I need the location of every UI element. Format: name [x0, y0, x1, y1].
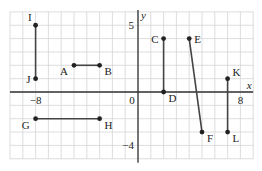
point-E	[187, 36, 192, 41]
y-axis-label: y	[140, 9, 146, 21]
origin-label: 0	[129, 94, 135, 106]
point-C	[161, 36, 166, 41]
point-label-H: H	[105, 119, 113, 131]
tick-label-x: −8	[30, 94, 42, 106]
point-label-I: I	[28, 11, 32, 23]
point-J	[33, 76, 38, 81]
point-label-G: G	[22, 119, 30, 131]
point-label-E: E	[194, 33, 201, 45]
point-G	[33, 116, 38, 121]
grid-lines	[10, 12, 253, 159]
point-B	[97, 63, 102, 68]
point-I	[33, 23, 38, 28]
tick-label-y: 5	[129, 19, 135, 31]
point-label-L: L	[233, 132, 240, 144]
tick-label-y: −4	[122, 139, 134, 151]
point-A	[72, 63, 77, 68]
point-label-J: J	[26, 73, 31, 85]
point-D	[161, 90, 166, 95]
point-label-K: K	[233, 66, 241, 78]
point-label-D: D	[169, 92, 177, 104]
point-label-A: A	[60, 65, 68, 77]
point-label-B: B	[105, 65, 112, 77]
point-F	[200, 130, 205, 135]
tick-label-x: 8	[238, 94, 244, 106]
labels: xy−8085−4ABCDEFGHIJKL	[22, 9, 252, 152]
point-label-C: C	[151, 33, 158, 45]
coordinate-grid: xy−8085−4ABCDEFGHIJKL	[0, 0, 262, 171]
point-L	[225, 130, 230, 135]
point-K	[225, 76, 230, 81]
point-H	[97, 116, 102, 121]
x-axis-label: x	[246, 79, 252, 91]
segment-EF	[189, 39, 202, 132]
point-label-F: F	[207, 132, 213, 144]
